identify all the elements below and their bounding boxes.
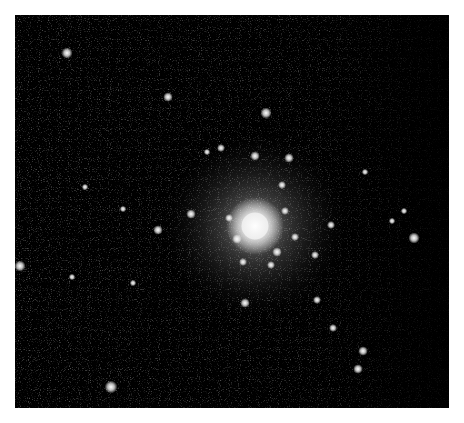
- star: [217, 144, 225, 152]
- star-field: [15, 15, 449, 408]
- star: [130, 280, 136, 286]
- star: [153, 225, 163, 235]
- star: [61, 47, 72, 58]
- star: [311, 251, 319, 259]
- star: [281, 207, 289, 215]
- star: [329, 324, 337, 332]
- star: [401, 208, 407, 214]
- star: [69, 274, 75, 280]
- star: [105, 381, 118, 394]
- star: [278, 181, 286, 189]
- star: [260, 107, 271, 118]
- star: [284, 153, 294, 163]
- star: [250, 151, 260, 161]
- star: [240, 298, 250, 308]
- star: [82, 184, 88, 190]
- star: [272, 247, 282, 257]
- star: [313, 296, 321, 304]
- star: [389, 218, 395, 224]
- star: [408, 232, 419, 243]
- star: [327, 221, 335, 229]
- star: [267, 261, 275, 269]
- star: [120, 206, 126, 212]
- star: [353, 364, 363, 374]
- cluster-core-glow: [226, 197, 284, 255]
- star: [291, 233, 299, 241]
- star: [239, 258, 247, 266]
- astronomical-image: [15, 15, 449, 408]
- star: [163, 92, 173, 102]
- star: [204, 149, 210, 155]
- star: [186, 209, 196, 219]
- star: [358, 346, 368, 356]
- star: [362, 169, 368, 175]
